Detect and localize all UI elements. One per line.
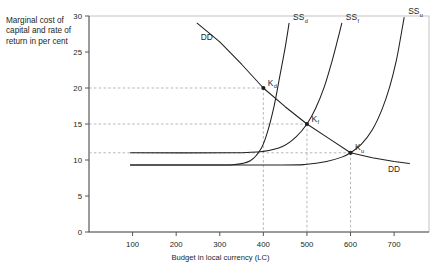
svg-text:600: 600 xyxy=(344,240,358,249)
data-curves xyxy=(130,17,409,165)
guide-lines xyxy=(89,88,351,232)
svg-text:DD: DD xyxy=(201,32,213,42)
svg-text:5: 5 xyxy=(78,192,83,201)
chart-root: Marginal cost of capital and rate of ret… xyxy=(0,0,441,275)
svg-text:0: 0 xyxy=(78,228,83,237)
svg-text:25: 25 xyxy=(73,48,82,57)
svg-text:10: 10 xyxy=(73,156,82,165)
svg-text:Kf: Kf xyxy=(311,114,319,126)
axis-ticks: 051015202530100200300400500600700 xyxy=(73,12,401,249)
plot-area: 051015202530100200300400500600700 SSdSSf… xyxy=(0,0,441,275)
svg-text:Ku: Ku xyxy=(355,142,364,154)
svg-text:Kd: Kd xyxy=(268,78,277,90)
svg-text:200: 200 xyxy=(170,240,184,249)
svg-text:SSu: SSu xyxy=(408,6,423,18)
svg-text:15: 15 xyxy=(73,120,82,129)
svg-text:500: 500 xyxy=(300,240,314,249)
svg-text:30: 30 xyxy=(73,12,82,21)
svg-text:700: 700 xyxy=(388,240,402,249)
svg-text:300: 300 xyxy=(213,240,227,249)
svg-text:SSf: SSf xyxy=(346,12,360,24)
chart-svg: 051015202530100200300400500600700 SSdSSf… xyxy=(0,0,441,275)
svg-text:SSd: SSd xyxy=(293,12,308,24)
chart-labels: SSdSSfSSuDDDDKdKfKu xyxy=(201,6,423,174)
svg-text:DD: DD xyxy=(388,164,400,174)
svg-text:100: 100 xyxy=(126,240,140,249)
svg-text:400: 400 xyxy=(257,240,271,249)
svg-text:20: 20 xyxy=(73,84,82,93)
x-axis-title: Budget in local currency (LC) xyxy=(0,253,441,262)
